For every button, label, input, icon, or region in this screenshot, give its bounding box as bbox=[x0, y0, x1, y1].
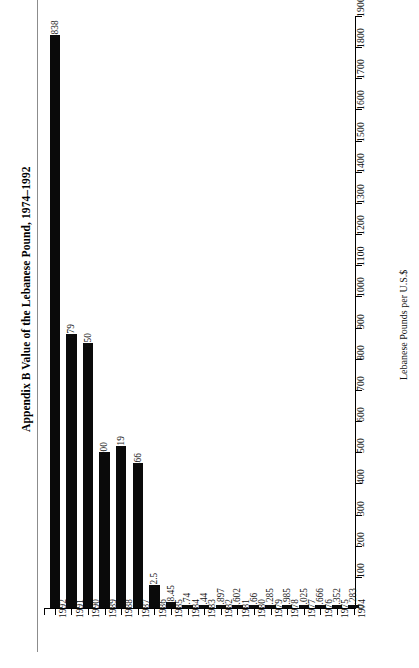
x-axis-label-1992: 1992 bbox=[59, 599, 68, 618]
x-tick-1988 bbox=[121, 609, 122, 615]
bar-1988 bbox=[116, 446, 127, 608]
chart-plot-area: 183887985050051946672.518.458.745.443.89… bbox=[44, 16, 356, 610]
bar-value-label-1987: 466 bbox=[133, 453, 142, 467]
x-axis-label-1980: 1980 bbox=[258, 599, 267, 618]
x-axis-label-1977: 1977 bbox=[308, 599, 317, 618]
y-axis-label-800: 800 bbox=[356, 345, 366, 360]
x-axis-label-1982: 1982 bbox=[225, 599, 234, 618]
page-title-text: Appendix B Value of the Lebanese Pound, … bbox=[20, 166, 36, 432]
y-axis-label-400: 400 bbox=[356, 469, 366, 484]
y-axis-label-200: 200 bbox=[356, 532, 366, 547]
x-tick-1992 bbox=[55, 609, 56, 615]
bar-value-label-1988: 519 bbox=[117, 436, 126, 450]
y-axis-label-500: 500 bbox=[356, 438, 366, 453]
x-tick-1974 bbox=[354, 609, 355, 615]
x-tick-1984 bbox=[188, 609, 189, 615]
bar-1990 bbox=[83, 343, 94, 608]
bar-value-label-1986: 72.5 bbox=[150, 573, 159, 590]
x-axis-label-1988: 1988 bbox=[125, 599, 134, 618]
x-axis-label-1978: 1978 bbox=[291, 599, 300, 618]
figure-title-block: Appendix B Value of the Lebanese Pound, … bbox=[0, 0, 40, 668]
x-tick-1975 bbox=[337, 609, 338, 615]
y-axis-label-1600: 1600 bbox=[356, 90, 366, 110]
y-axis-label-1800: 1800 bbox=[356, 28, 366, 48]
y-axis-label-1200: 1200 bbox=[356, 215, 366, 235]
x-axis-label-1990: 1990 bbox=[92, 599, 101, 618]
y-axis-label-1900: 1900 bbox=[356, 0, 366, 17]
x-axis-label-1985: 1985 bbox=[175, 599, 184, 618]
bar-value-label-1990: 850 bbox=[83, 333, 92, 347]
y-axis-label-1000: 1000 bbox=[356, 277, 366, 297]
x-axis-label-1979: 1979 bbox=[275, 599, 284, 618]
x-axis-label-1986: 1986 bbox=[159, 599, 168, 618]
y-axis-label-900: 900 bbox=[356, 314, 366, 329]
x-axis-label-1981: 1981 bbox=[242, 599, 251, 618]
x-tick-axis-start bbox=[44, 609, 45, 615]
bar-1987 bbox=[133, 463, 144, 608]
bar-value-label-1992: 1838 bbox=[50, 21, 59, 40]
x-tick-1980 bbox=[254, 609, 255, 615]
x-tick-1990 bbox=[88, 609, 89, 615]
y-axis-title: Lebanese Pounds per U.S.$ bbox=[396, 180, 412, 380]
x-tick-1982 bbox=[221, 609, 222, 615]
bar-value-label-1989: 500 bbox=[100, 442, 109, 456]
x-axis-label-1975: 1975 bbox=[341, 599, 350, 618]
y-axis-label-700: 700 bbox=[356, 376, 366, 391]
x-tick-1983 bbox=[204, 609, 205, 615]
x-tick-1976 bbox=[320, 609, 321, 615]
y-axis-label-1500: 1500 bbox=[356, 122, 366, 142]
y-axis-label-0: 0 bbox=[356, 604, 366, 609]
x-tick-1985 bbox=[171, 609, 172, 615]
y-axis-label-1300: 1300 bbox=[356, 184, 366, 204]
y-axis-label-1400: 1400 bbox=[356, 153, 366, 173]
bar-1991 bbox=[66, 334, 77, 608]
x-axis-label-1989: 1989 bbox=[109, 599, 118, 618]
y-axis-label-1700: 1700 bbox=[356, 59, 366, 79]
x-tick-1986 bbox=[154, 609, 155, 615]
y-axis-label-1100: 1100 bbox=[356, 247, 366, 267]
x-axis-label-1991: 1991 bbox=[76, 599, 85, 618]
x-tick-1977 bbox=[304, 609, 305, 615]
x-tick-1987 bbox=[138, 609, 139, 615]
y-axis-label-300: 300 bbox=[356, 501, 366, 516]
x-tick-1979 bbox=[271, 609, 272, 615]
x-axis-label-1976: 1976 bbox=[325, 599, 334, 618]
x-tick-1991 bbox=[71, 609, 72, 615]
page-title: Appendix B Value of the Lebanese Pound, … bbox=[0, 0, 36, 652]
x-axis-label-1983: 1983 bbox=[208, 599, 217, 618]
title-rule-divider bbox=[37, 0, 38, 652]
x-tick-1981 bbox=[237, 609, 238, 615]
y-axis-label-100: 100 bbox=[356, 563, 366, 578]
bar-value-label-1991: 879 bbox=[67, 324, 76, 338]
bar-1992 bbox=[50, 35, 61, 608]
x-axis-label-1987: 1987 bbox=[142, 599, 151, 618]
x-axis-label-1984: 1984 bbox=[192, 599, 201, 618]
figure-page: Appendix B Value of the Lebanese Pound, … bbox=[0, 0, 419, 668]
bar-1989 bbox=[99, 452, 110, 608]
y-axis-label-600: 600 bbox=[356, 407, 366, 422]
x-tick-1989 bbox=[105, 609, 106, 615]
x-tick-1978 bbox=[287, 609, 288, 615]
